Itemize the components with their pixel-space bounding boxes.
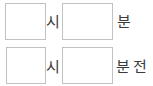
hour-unit-label-row2: 시	[46, 58, 60, 76]
minute-unit-label-row1: 분	[117, 13, 131, 31]
hour-input-row2[interactable]	[6, 47, 46, 84]
minute-input-row1[interactable]	[62, 3, 113, 40]
minute-unit-text-row2: 분	[116, 58, 130, 76]
minute-unit-label-row2: 분전	[116, 58, 147, 76]
time-row-minute-ago: 시 분전	[0, 43, 153, 86]
minute-input-row2[interactable]	[62, 47, 113, 84]
time-row-hour: 시 분	[0, 0, 153, 43]
time-entry-form: 시 분 시 분전	[0, 0, 153, 86]
ago-suffix-label-row2: 전	[130, 58, 147, 76]
hour-unit-label-row1: 시	[46, 13, 60, 31]
hour-input-row1[interactable]	[5, 3, 46, 40]
